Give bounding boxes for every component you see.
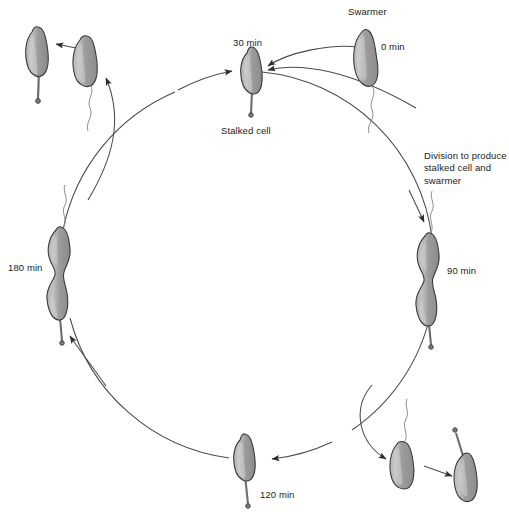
label-swarmer: Swarmer [348,6,387,18]
label-120-min: 120 min [260,489,295,501]
cell-stalked-progeny [453,428,477,502]
holdfast [429,345,434,350]
holdfast [246,504,251,509]
holdfast [36,99,41,104]
cell-swarmer-release [390,399,414,489]
holdfast [453,428,458,433]
cell-stalked-30min [241,47,263,117]
holdfast [249,113,254,118]
stalk [429,324,431,345]
flagellum [63,185,66,228]
cell-stalked-progeny-topleft [26,27,49,104]
holdfast [60,341,65,346]
branch-curves [56,44,452,476]
flagellum [87,84,92,131]
arrow-topleft-swarmer-to-stalked [56,44,76,48]
curve-to-180-stalk [70,336,106,386]
arrow-release-to-stalked-progeny [424,466,452,476]
curve-swarmer-to-stalked [268,46,358,66]
cell-swarmer-0min [354,30,378,133]
flagellum [404,399,407,443]
label-division-note: Division to produce stalked cell and swa… [424,150,509,187]
label-180-min: 180 min [8,262,43,274]
curve-180-to-swarmer-progeny [88,78,115,200]
stalk [60,318,62,341]
curve-ring-to-swarmer-release [360,385,386,459]
label-stalked-cell: Stalked cell [221,125,271,137]
cell-dividing-180min [47,185,70,345]
cell-cycle-diagram: Swarmer 0 min 30 min Stalked cell Divisi… [0,0,509,523]
label-30-min: 30 min [233,37,262,49]
stalk [251,92,252,113]
cell-swarmer-progeny [73,36,97,131]
cell-stalked-120min [234,434,256,508]
label-0-min: 0 min [381,41,405,53]
curve-right-to-stalked [268,67,416,108]
diagram-canvas [0,0,509,523]
label-90-min: 90 min [447,265,476,277]
flagellum [368,86,374,133]
